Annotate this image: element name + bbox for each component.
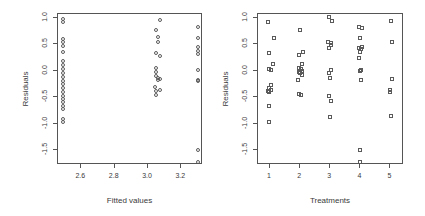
data-point [328,76,332,80]
data-point [267,51,271,55]
data-point [61,20,65,24]
x-axis-tick-label: 3.0 [142,172,152,179]
y-axis-tick-label: 0.0 [41,65,48,75]
data-point [299,93,303,97]
data-point [327,71,331,75]
data-point [196,79,200,83]
y-axis-tick [253,43,257,44]
data-point [61,40,65,44]
data-point [390,40,394,44]
data-point [330,19,334,23]
y-axis-tick-label: 1.0 [41,12,48,22]
data-point [267,90,271,94]
y-axis-tick-label: 0.5 [241,38,248,48]
x-axis-tick [147,164,148,168]
residual-diagnostic-figure: 2.62.83.03.21.00.50.0-0.5-1.0-1.5Fitted … [0,0,425,216]
data-point [154,28,158,32]
x-axis-tick-label: 3 [327,172,331,179]
x-axis-tick [114,164,115,168]
data-point [298,28,302,32]
data-point [156,35,160,39]
data-point [196,160,200,163]
data-point [390,77,394,81]
y-axis-tick-label: -1.5 [41,143,48,155]
x-axis-tick [180,164,181,168]
data-point [328,115,332,119]
x-axis-title: Fitted values [107,196,152,205]
y-axis-tick [53,123,57,124]
data-point [269,68,273,72]
data-point [359,78,363,82]
y-axis-tick [53,17,57,18]
x-axis-tick-label: 2.6 [75,172,85,179]
data-point [327,46,331,50]
y-axis-tick [253,70,257,71]
x-axis-tick-label: 2 [297,172,301,179]
y-axis-tick [253,96,257,97]
y-axis-tick-label: -1.0 [241,117,248,129]
data-point [156,78,160,82]
data-point [358,69,362,73]
y-axis-tick [53,149,57,150]
x-axis-tick-label: 5 [388,172,392,179]
data-point [61,107,65,111]
y-axis-title: Residuals [21,71,30,106]
x-axis-tick [269,164,270,168]
data-point [329,99,333,103]
y-axis-tick-label: 0.5 [41,38,48,48]
data-point [360,26,364,30]
data-points-layer [58,14,201,163]
y-axis-tick-label: -1.5 [241,143,248,155]
data-point [267,104,271,108]
x-axis-tick-label: 3.2 [175,172,185,179]
data-point [389,114,393,118]
right-scatter-panel: 123451.00.50.0-0.5-1.0-1.5TreatmentsResi… [213,0,425,216]
x-axis-title: Treatments [310,196,350,205]
y-axis-tick-label: 1.0 [241,12,248,22]
data-point [196,25,200,29]
plot-frame [257,13,403,164]
x-axis-tick-label: 1 [267,172,271,179]
data-point [61,44,65,48]
data-point [272,36,276,40]
y-axis-tick [253,149,257,150]
x-axis-tick [80,164,81,168]
data-point [358,50,362,54]
x-axis-tick-label: 4 [357,172,361,179]
data-point [300,73,304,77]
data-point [196,36,200,40]
data-point [301,50,305,54]
data-point [389,19,393,23]
data-point [327,15,331,19]
x-axis-tick [359,164,360,168]
left-scatter-panel: 2.62.83.03.21.00.50.0-0.5-1.0-1.5Fitted … [0,0,212,216]
data-point [358,36,362,40]
y-axis-tick-label: -0.5 [241,90,248,102]
y-axis-title: Residuals [221,71,230,106]
data-point [327,94,331,98]
data-point [297,53,301,57]
data-point [158,18,162,22]
data-point [296,78,300,82]
data-point [158,88,162,92]
data-point [158,54,162,58]
x-axis-tick [389,164,390,168]
data-point [267,120,271,124]
data-point [388,90,392,94]
data-point [61,50,65,54]
data-point [357,56,361,60]
data-point [154,93,158,97]
data-point [266,20,270,24]
data-point [196,68,200,72]
data-point [271,62,275,66]
data-point [61,120,65,124]
data-point [156,40,160,44]
x-axis-tick-label: 2.8 [109,172,119,179]
y-axis-tick-label: -0.5 [41,90,48,102]
data-point [196,52,200,56]
y-axis-tick-label: 0.0 [241,65,248,75]
x-axis-tick [329,164,330,168]
y-axis-tick [253,123,257,124]
y-axis-tick [53,96,57,97]
data-points-layer [258,14,402,163]
